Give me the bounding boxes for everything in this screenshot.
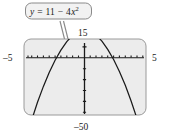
ymax-label: 15 [78, 28, 88, 38]
ymin-label: –50 [73, 122, 89, 132]
callout-lhs: y [29, 7, 35, 17]
callout-minus: − [58, 7, 63, 17]
callout-equals: = [37, 7, 42, 17]
xmax-label: 5 [152, 53, 157, 63]
callout-exponent: 2 [76, 5, 79, 12]
equation-callout-text: y=11−4x2 [29, 5, 79, 17]
xmin-label: –5 [2, 53, 13, 63]
graph-figure: y=11−4x2 [0, 0, 169, 139]
svg-text:y=11−4x2: y=11−4x2 [29, 5, 79, 17]
callout-coefficient: 4 [66, 7, 71, 17]
callout-constant: 11 [46, 7, 55, 17]
